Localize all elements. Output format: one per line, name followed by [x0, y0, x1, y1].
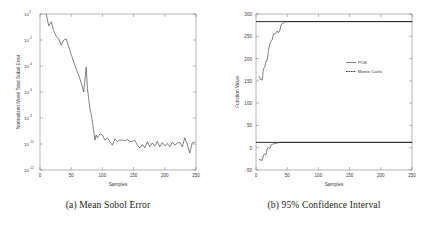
legend-label-monte-carlo: Monte Carlo [358, 69, 382, 74]
y-tick-label-300: 300 [244, 12, 252, 17]
chart-legend: PCE Monte Carlo [346, 60, 382, 74]
x-tick-label-5: 250 [192, 173, 200, 178]
y-tick-label-200: 200 [244, 57, 252, 62]
y-tick-label-0: 0 [249, 146, 252, 151]
x-axis-title: Samples [325, 182, 344, 187]
y-tick-exp-6: -12 [29, 166, 34, 170]
y-axis-title: Normalized Mean Total Sobol Error [16, 54, 21, 129]
y-tick-exp-0: 0 [29, 10, 31, 14]
y-tick-label-50: 50 [247, 123, 253, 128]
chart-frame [256, 14, 412, 170]
series-line-pce-upper [259, 22, 412, 80]
plot-area-confidence-interval: 300 250 200 150 100 50 0 -50 [216, 2, 432, 195]
x-axis-ticks [256, 14, 412, 170]
x-tick-label-0: 0 [39, 173, 42, 178]
y-axis-ticks [40, 14, 196, 170]
x-axis-title: Samples [109, 182, 128, 187]
x-axis-ticks [40, 14, 196, 170]
y-tick-label-neg50: -50 [245, 168, 252, 173]
legend-label-pce: PCE [358, 60, 367, 65]
y-tick-label-150: 150 [244, 79, 252, 84]
subfigure-mean-sobol-error: 10 0 10 -2 10 -4 10 -6 10 -8 10 -10 10 -… [0, 0, 216, 242]
x-tick-label-2: 100 [315, 173, 323, 178]
subfigure-a-caption: (a) Mean Sobol Error [0, 200, 216, 210]
x-tick-label-4: 200 [377, 173, 385, 178]
x-axis-tick-labels: 0 50 100 150 200 250 [255, 173, 417, 178]
figure-root: 10 0 10 -2 10 -4 10 -6 10 -8 10 -10 10 -… [0, 0, 432, 242]
y-tick-exp-4: -8 [29, 114, 32, 118]
sobol-error-chart-svg: 10 0 10 -2 10 -4 10 -6 10 -8 10 -10 10 -… [0, 2, 216, 195]
subfigure-confidence-interval: 300 250 200 150 100 50 0 -50 [216, 0, 432, 242]
y-tick-label-100: 100 [244, 101, 252, 106]
series-line-sobol-error [46, 14, 195, 153]
y-tick-label-250: 250 [244, 34, 252, 39]
y-axis-title: Function Value [235, 76, 240, 108]
x-tick-label-3: 150 [130, 173, 138, 178]
y-tick-exp-3: -6 [29, 88, 32, 92]
x-axis-tick-labels: 0 50 100 150 200 250 [39, 173, 201, 178]
y-tick-exp-1: -2 [29, 36, 32, 40]
chart-frame [40, 14, 196, 170]
series-line-pce-lower [259, 142, 412, 160]
x-tick-label-0: 0 [255, 173, 258, 178]
x-tick-label-1: 50 [285, 173, 291, 178]
subfigure-b-caption: (b) 95% Confidence Interval [216, 200, 432, 210]
x-tick-label-4: 200 [161, 173, 169, 178]
x-tick-label-1: 50 [69, 173, 75, 178]
x-tick-label-2: 100 [99, 173, 107, 178]
y-tick-exp-5: -10 [29, 140, 34, 144]
confidence-interval-chart-svg: 300 250 200 150 100 50 0 -50 [216, 2, 432, 195]
y-tick-exp-2: -4 [29, 62, 32, 66]
y-axis-tick-labels: 300 250 200 150 100 50 0 -50 [244, 12, 252, 173]
y-axis-ticks [256, 14, 412, 170]
x-tick-label-3: 150 [346, 173, 354, 178]
y-axis-tick-labels: 10 0 10 -2 10 -4 10 -6 10 -8 10 -10 10 -… [24, 10, 34, 173]
plot-area-sobol-error: 10 0 10 -2 10 -4 10 -6 10 -8 10 -10 10 -… [0, 2, 216, 195]
x-tick-label-5: 250 [408, 173, 416, 178]
